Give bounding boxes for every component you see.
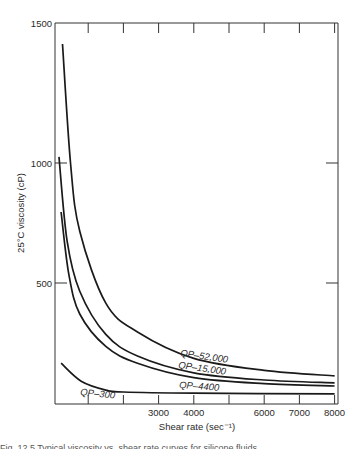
viscosity-chart: 30004000600070008000 50010001500 QP–52,0… <box>0 0 361 440</box>
series-curves <box>59 44 335 394</box>
y-tick-label: 1000 <box>31 158 52 169</box>
x-tick-label: 6000 <box>254 407 275 418</box>
figure-caption: Fig. 12.5 Typical viscosity vs. shear ra… <box>0 444 361 449</box>
x-tick-label: 7000 <box>289 407 310 418</box>
plot-frame <box>55 23 338 404</box>
y-axis-ticks: 50010001500 <box>31 18 338 289</box>
curve-qp-52000 <box>63 44 335 376</box>
x-tick-label: 4000 <box>183 407 204 418</box>
x-tick-label: 3000 <box>148 407 169 418</box>
label-qp-300: QP–300 <box>80 386 117 401</box>
y-axis-title: 25°C viscosity (cP) <box>15 173 26 253</box>
label-qp-4400: QP–4400 <box>179 379 221 393</box>
y-tick-label: 1500 <box>31 18 52 29</box>
x-tick-label: 8000 <box>324 407 345 418</box>
x-axis-title: Shear rate (sec⁻¹) <box>159 421 235 432</box>
y-tick-label: 500 <box>36 278 52 289</box>
